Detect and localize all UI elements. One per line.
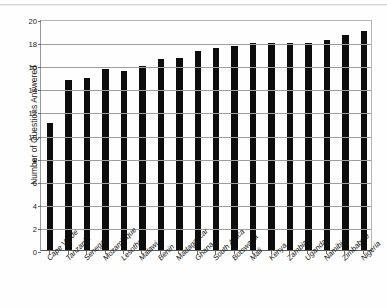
gridline [41,160,371,161]
y-tick-mark [38,44,41,45]
x-axis-labels: Cape VerdeTanzaniaSenegalMozambiqueLesot… [40,251,372,308]
y-tick-label: 4 [33,201,37,210]
gridline [41,113,371,114]
bar-chart: Number of Questions Answered 02468101214… [0,0,387,308]
bar [305,43,312,250]
y-tick-mark [38,183,41,184]
y-tick-mark [38,67,41,68]
y-tick-label: 10 [29,132,37,141]
gridline [41,183,371,184]
y-tick-mark [38,113,41,114]
scan-artifact-line-secondary [0,5,387,6]
bar [195,51,202,250]
bar [231,46,238,250]
y-tick-label: 12 [29,109,37,118]
bar [361,31,368,250]
gridline [41,90,371,91]
gridline [41,137,371,138]
y-tick-label: 18 [29,40,37,49]
bar [158,59,165,250]
bar [287,43,294,250]
bar [139,66,146,250]
bar [268,43,275,250]
bars-layer [41,21,371,250]
bar [324,40,331,250]
y-tick-label: 0 [33,248,37,257]
y-tick-mark [38,90,41,91]
y-tick-label: 6 [33,178,37,187]
y-tick-label: 14 [29,86,37,95]
bar [176,58,183,250]
bar [213,48,220,250]
y-tick-label: 20 [29,17,37,26]
y-tick-mark [38,137,41,138]
gridline [41,206,371,207]
y-tick-mark [38,21,41,22]
plot-area: 02468101214161820 [40,20,372,251]
y-tick-mark [38,206,41,207]
gridline [41,44,371,45]
y-tick-label: 16 [29,63,37,72]
bar [47,123,54,250]
y-axis-title: Number of Questions Answered [29,25,39,225]
gridline [41,67,371,68]
bar [65,80,72,250]
bar [84,78,91,250]
y-tick-mark [38,160,41,161]
y-tick-label: 8 [33,155,37,164]
bar [250,43,257,250]
y-tick-label: 2 [33,224,37,233]
y-tick-mark [38,229,41,230]
